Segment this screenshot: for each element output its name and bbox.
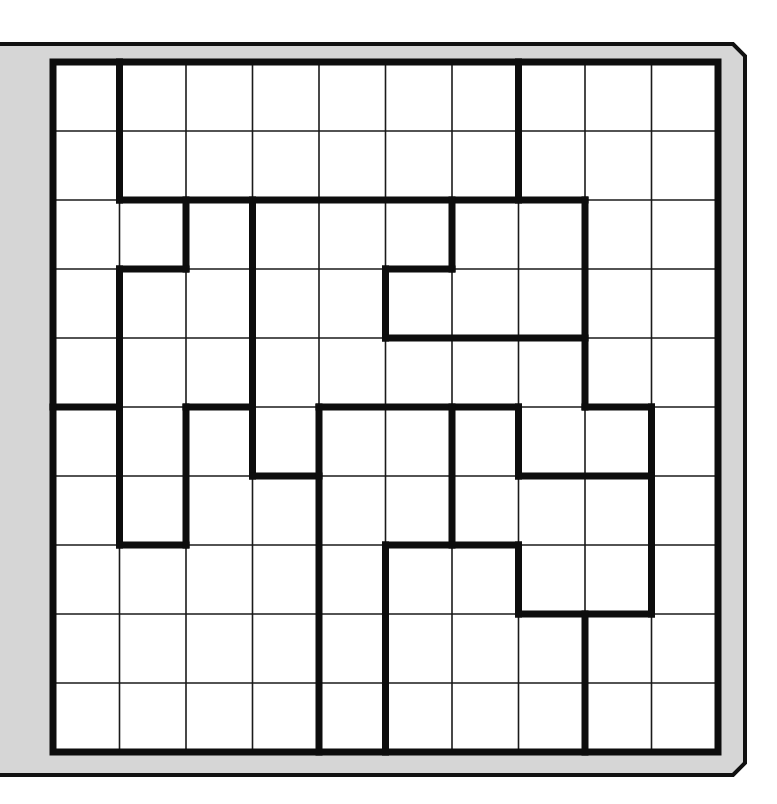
grid-cell-r6-c0[interactable] [53, 476, 120, 545]
grid-cell-r6-c1[interactable] [120, 476, 187, 545]
grid-cell-r7-c9[interactable] [652, 545, 719, 614]
grid-cell-r5-c0[interactable] [53, 407, 120, 476]
grid-cell-r3-c5[interactable] [386, 269, 453, 338]
grid-cell-r5-c2[interactable] [186, 407, 253, 476]
grid-cell-r3-c1[interactable] [120, 269, 187, 338]
grid-cell-r9-c3[interactable] [253, 683, 320, 752]
grid-cell-r2-c7[interactable] [519, 200, 586, 269]
grid-cell-r2-c0[interactable] [53, 200, 120, 269]
grid-cell-r3-c3[interactable] [253, 269, 320, 338]
grid-cell-r1-c1[interactable] [120, 131, 187, 200]
grid-cell-r5-c5[interactable] [386, 407, 453, 476]
grid-cell-r3-c8[interactable] [585, 269, 652, 338]
grid-cell-r2-c2[interactable] [186, 200, 253, 269]
grid-cell-r8-c4[interactable] [319, 614, 386, 683]
grid-cell-r3-c2[interactable] [186, 269, 253, 338]
grid-cell-r7-c5[interactable] [386, 545, 453, 614]
grid-cell-r6-c5[interactable] [386, 476, 453, 545]
grid-cell-r4-c9[interactable] [652, 338, 719, 407]
grid-cell-r1-c2[interactable] [186, 131, 253, 200]
grid-cell-r8-c2[interactable] [186, 614, 253, 683]
grid-cell-r0-c4[interactable] [319, 62, 386, 131]
grid-cell-r0-c3[interactable] [253, 62, 320, 131]
grid-cell-r1-c7[interactable] [519, 131, 586, 200]
grid-cell-r8-c9[interactable] [652, 614, 719, 683]
grid-cell-r0-c2[interactable] [186, 62, 253, 131]
grid-cell-r8-c7[interactable] [519, 614, 586, 683]
grid-cell-r2-c8[interactable] [585, 200, 652, 269]
grid-cell-r6-c4[interactable] [319, 476, 386, 545]
grid-cell-r0-c5[interactable] [386, 62, 453, 131]
grid-cell-r3-c6[interactable] [452, 269, 519, 338]
grid-cell-r8-c0[interactable] [53, 614, 120, 683]
grid-cell-r4-c1[interactable] [120, 338, 187, 407]
grid-cell-r9-c2[interactable] [186, 683, 253, 752]
grid-cell-r1-c6[interactable] [452, 131, 519, 200]
grid-cell-r4-c4[interactable] [319, 338, 386, 407]
grid-cell-r9-c5[interactable] [386, 683, 453, 752]
grid-cell-r4-c0[interactable] [53, 338, 120, 407]
grid-cell-r4-c3[interactable] [253, 338, 320, 407]
grid-cell-r8-c5[interactable] [386, 614, 453, 683]
grid-cell-r9-c8[interactable] [585, 683, 652, 752]
grid-cell-r0-c7[interactable] [519, 62, 586, 131]
grid-cell-r0-c0[interactable] [53, 62, 120, 131]
grid-cell-r3-c7[interactable] [519, 269, 586, 338]
grid-cell-r5-c3[interactable] [253, 407, 320, 476]
grid-cell-r7-c8[interactable] [585, 545, 652, 614]
grid-cell-r1-c4[interactable] [319, 131, 386, 200]
grid-cell-r9-c4[interactable] [319, 683, 386, 752]
grid-cell-r8-c3[interactable] [253, 614, 320, 683]
grid-cell-r5-c1[interactable] [120, 407, 187, 476]
grid-cell-r4-c6[interactable] [452, 338, 519, 407]
grid-cell-r3-c4[interactable] [319, 269, 386, 338]
grid-cell-r8-c8[interactable] [585, 614, 652, 683]
grid-cell-r9-c6[interactable] [452, 683, 519, 752]
grid-cell-r3-c9[interactable] [652, 269, 719, 338]
grid-cell-r2-c3[interactable] [253, 200, 320, 269]
grid-cell-r0-c8[interactable] [585, 62, 652, 131]
grid-cell-r4-c2[interactable] [186, 338, 253, 407]
grid-cell-r6-c6[interactable] [452, 476, 519, 545]
grid-cell-r7-c4[interactable] [319, 545, 386, 614]
grid-cell-r8-c6[interactable] [452, 614, 519, 683]
grid-cell-r2-c1[interactable] [120, 200, 187, 269]
grid-cell-r0-c9[interactable] [652, 62, 719, 131]
grid-cell-r4-c5[interactable] [386, 338, 453, 407]
grid-cell-r5-c9[interactable] [652, 407, 719, 476]
grid-cell-r6-c9[interactable] [652, 476, 719, 545]
grid-cell-r7-c2[interactable] [186, 545, 253, 614]
grid-cell-r6-c2[interactable] [186, 476, 253, 545]
grid-cell-r6-c7[interactable] [519, 476, 586, 545]
grid-cell-r8-c1[interactable] [120, 614, 187, 683]
grid-cell-r5-c8[interactable] [585, 407, 652, 476]
grid-cell-r2-c9[interactable] [652, 200, 719, 269]
grid-cell-r1-c0[interactable] [53, 131, 120, 200]
grid-cell-r7-c3[interactable] [253, 545, 320, 614]
grid-cell-r1-c8[interactable] [585, 131, 652, 200]
grid-cell-r2-c5[interactable] [386, 200, 453, 269]
grid-cell-r6-c8[interactable] [585, 476, 652, 545]
grid-cell-r7-c7[interactable] [519, 545, 586, 614]
grid-cell-r9-c9[interactable] [652, 683, 719, 752]
grid-cell-r1-c5[interactable] [386, 131, 453, 200]
grid-cell-r0-c1[interactable] [120, 62, 187, 131]
grid-cell-r7-c6[interactable] [452, 545, 519, 614]
grid-cell-r5-c7[interactable] [519, 407, 586, 476]
grid-cell-r4-c8[interactable] [585, 338, 652, 407]
grid-cell-r4-c7[interactable] [519, 338, 586, 407]
grid-cell-r6-c3[interactable] [253, 476, 320, 545]
grid-cell-r2-c6[interactable] [452, 200, 519, 269]
grid-cell-r9-c0[interactable] [53, 683, 120, 752]
grid-cell-r5-c6[interactable] [452, 407, 519, 476]
grid-cell-r7-c1[interactable] [120, 545, 187, 614]
grid-cell-r1-c9[interactable] [652, 131, 719, 200]
grid-cell-r5-c4[interactable] [319, 407, 386, 476]
grid-cell-r0-c6[interactable] [452, 62, 519, 131]
grid-cell-r9-c1[interactable] [120, 683, 187, 752]
grid-cell-r9-c7[interactable] [519, 683, 586, 752]
grid-cell-r7-c0[interactable] [53, 545, 120, 614]
grid-cell-r1-c3[interactable] [253, 131, 320, 200]
grid-cell-r3-c0[interactable] [53, 269, 120, 338]
grid-cell-r2-c4[interactable] [319, 200, 386, 269]
